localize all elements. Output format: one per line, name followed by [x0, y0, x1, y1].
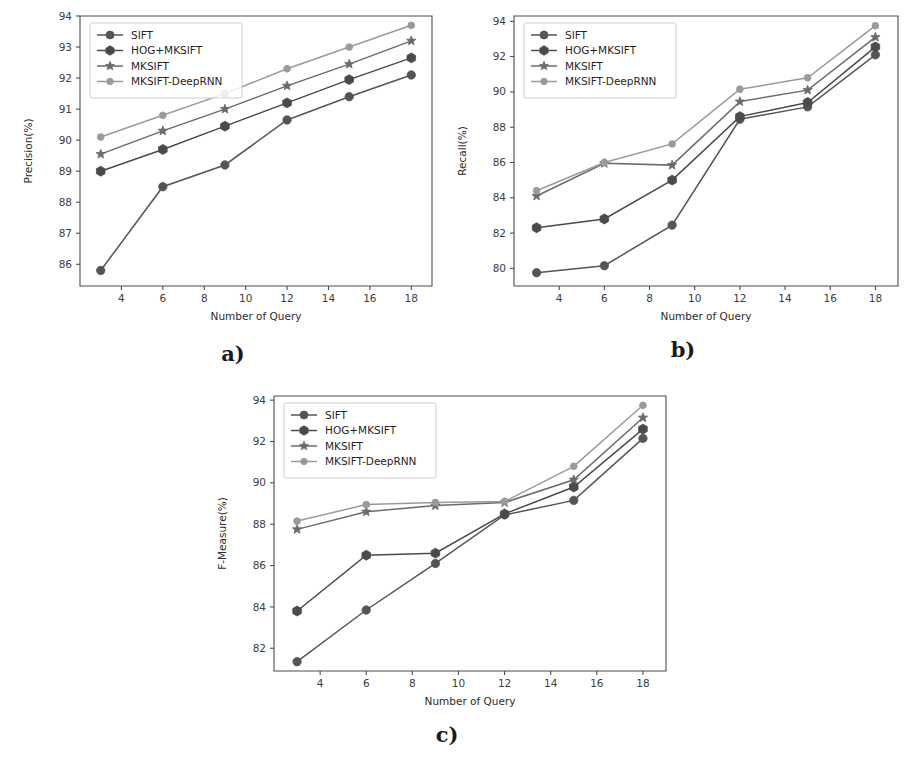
x-tick-label: 18 — [636, 677, 649, 689]
figure-container: 4681012141618Number of Query868788899091… — [0, 0, 923, 765]
legend-marker — [107, 78, 114, 85]
data-point — [570, 496, 578, 504]
data-point — [159, 144, 168, 154]
y-axis-title: F-Measure(%) — [216, 497, 228, 570]
data-point — [803, 98, 812, 108]
data-point — [346, 44, 353, 51]
data-point — [284, 65, 291, 72]
x-tick-label: 18 — [869, 292, 882, 304]
y-tick-label: 84 — [253, 601, 267, 613]
legend-label: MKSIFT-DeepRNN — [131, 75, 222, 87]
data-point — [294, 518, 301, 525]
data-point — [804, 74, 811, 81]
data-point — [872, 22, 879, 29]
data-point — [282, 81, 291, 90]
x-axis-title: Number of Query — [425, 695, 516, 707]
legend-marker — [301, 458, 308, 465]
y-tick-label: 82 — [253, 642, 266, 654]
chart-svg-c: 4681012141618Number of Query828486889092… — [212, 382, 682, 727]
data-point — [97, 266, 105, 274]
y-tick-label: 82 — [493, 227, 506, 239]
panel-caption-a: a) — [18, 341, 448, 366]
data-point — [736, 86, 743, 93]
x-tick-label: 4 — [317, 677, 324, 689]
x-tick-label: 14 — [322, 292, 336, 304]
data-point — [432, 499, 439, 506]
data-point — [669, 141, 676, 148]
x-tick-label: 6 — [601, 292, 608, 304]
y-tick-label: 86 — [493, 156, 507, 168]
legend-b: SIFTHOG+MKSIFTMKSIFTMKSIFT-DeepRNN — [524, 23, 676, 98]
legend-label: MKSIFT — [131, 60, 170, 72]
data-point — [293, 657, 301, 665]
data-point — [283, 116, 291, 124]
legend-label: HOG+MKSIFT — [131, 44, 203, 56]
data-point — [668, 221, 676, 229]
x-tick-label: 16 — [824, 292, 838, 304]
y-tick-label: 90 — [59, 134, 72, 146]
data-point — [407, 53, 416, 63]
data-point — [362, 606, 370, 614]
data-point — [639, 434, 647, 442]
data-point — [293, 606, 302, 616]
data-point — [345, 92, 353, 100]
x-tick-label: 8 — [201, 292, 208, 304]
data-point — [532, 269, 540, 277]
data-point — [159, 182, 167, 190]
data-point — [570, 463, 577, 470]
data-point — [871, 42, 880, 52]
y-tick-label: 92 — [253, 435, 266, 447]
data-point — [344, 59, 353, 68]
data-point — [532, 223, 541, 233]
data-point — [221, 161, 229, 169]
x-tick-label: 10 — [688, 292, 701, 304]
data-point — [431, 559, 439, 567]
data-point — [640, 402, 647, 409]
x-axis-title: Number of Query — [661, 310, 752, 322]
data-point — [97, 134, 104, 141]
y-tick-label: 80 — [493, 262, 506, 274]
data-point — [601, 159, 608, 166]
x-tick-label: 16 — [590, 677, 604, 689]
y-tick-label: 86 — [59, 258, 73, 270]
data-point — [407, 71, 415, 79]
legend-label: HOG+MKSIFT — [565, 44, 637, 56]
x-axis-title: Number of Query — [211, 310, 302, 322]
legend-marker — [106, 46, 114, 55]
y-tick-label: 89 — [59, 165, 72, 177]
x-axis-c: 4681012141618 — [317, 671, 650, 689]
x-tick-label: 14 — [544, 677, 558, 689]
x-tick-label: 12 — [733, 292, 746, 304]
legend-a: SIFTHOG+MKSIFTMKSIFTMKSIFT-DeepRNN — [90, 23, 242, 98]
data-point — [158, 126, 167, 135]
data-point — [363, 501, 370, 508]
x-axis-a: 4681012141618 — [118, 286, 418, 304]
panel-caption-b: b) — [452, 337, 914, 362]
data-point — [407, 36, 416, 45]
y-tick-label: 94 — [253, 394, 267, 406]
x-tick-label: 6 — [159, 292, 166, 304]
y-tick-label: 94 — [59, 10, 73, 22]
chart-svg-a: 4681012141618Number of Query868788899091… — [18, 2, 448, 342]
legend-marker — [540, 31, 548, 39]
chart-panel-a: 4681012141618Number of Query868788899091… — [18, 2, 448, 342]
chart-panel-c: 4681012141618Number of Query828486889092… — [212, 382, 682, 727]
data-point — [362, 550, 371, 560]
y-axis-title: Precision(%) — [22, 118, 34, 183]
y-tick-label: 88 — [59, 196, 72, 208]
chart-panel-b: 4681012141618Number of Query808284868890… — [452, 2, 914, 342]
data-point — [159, 112, 166, 119]
y-tick-label: 88 — [253, 518, 266, 530]
legend-marker — [541, 78, 548, 85]
data-point — [292, 524, 301, 533]
legend-label: MKSIFT-DeepRNN — [325, 455, 416, 467]
data-point — [500, 509, 509, 519]
data-point — [96, 149, 105, 158]
legend-label: SIFT — [325, 409, 348, 421]
x-tick-label: 8 — [409, 677, 416, 689]
legend-marker — [106, 31, 114, 39]
y-tick-label: 87 — [59, 227, 72, 239]
data-point — [96, 166, 105, 176]
y-tick-label: 93 — [59, 41, 72, 53]
x-tick-label: 4 — [118, 292, 125, 304]
